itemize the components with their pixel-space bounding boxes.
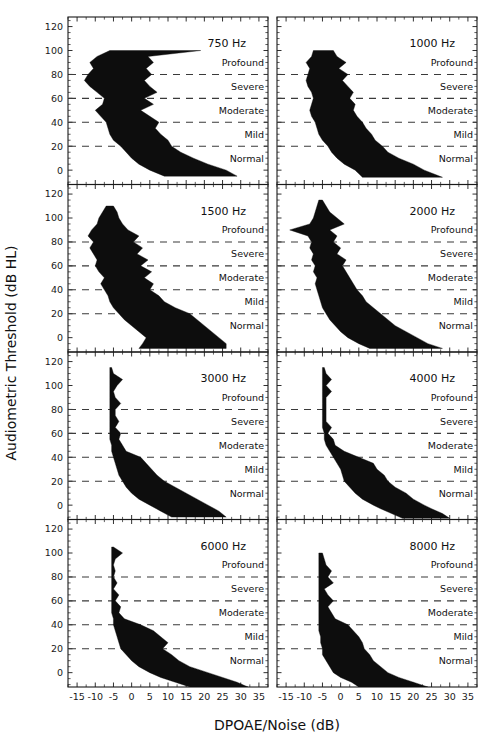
x-tick-label: -15 — [278, 691, 294, 702]
frequency-label: 4000 Hz — [409, 372, 455, 385]
x-tick-label: -15 — [69, 691, 85, 702]
severity-label-normal: Normal — [439, 320, 473, 331]
frequency-label: 8000 Hz — [409, 540, 455, 553]
severity-label-moderate: Moderate — [428, 105, 473, 116]
y-tick-label: 0 — [57, 165, 63, 176]
severity-label-moderate: Moderate — [219, 272, 264, 283]
y-tick-label: 120 — [45, 523, 63, 534]
distribution-band — [306, 51, 442, 178]
severity-label-mild: Mild — [244, 296, 264, 307]
panel-6000-hz: 6000 HzProfoundSevereModerateMildNormal0… — [45, 520, 268, 703]
y-tick-label: 100 — [45, 212, 63, 223]
severity-label-severe: Severe — [440, 583, 473, 594]
frequency-label: 1000 Hz — [409, 37, 455, 50]
severity-label-severe: Severe — [231, 583, 264, 594]
severity-label-profound: Profound — [222, 57, 264, 68]
y-tick-label: 0 — [57, 667, 63, 678]
x-tick-label: 20 — [407, 691, 419, 702]
severity-label-moderate: Moderate — [428, 440, 473, 451]
x-tick-label: 30 — [444, 691, 456, 702]
severity-label-mild: Mild — [244, 129, 264, 140]
caption-fragment — [6, 737, 493, 749]
y-tick-label: 80 — [51, 69, 63, 80]
y-tick-label: 20 — [51, 141, 63, 152]
severity-label-severe: Severe — [440, 416, 473, 427]
y-tick-label: 40 — [51, 117, 63, 128]
distribution-band — [88, 206, 226, 348]
panel-8000-hz: 8000 HzProfoundSevereModerateMildNormal-… — [277, 520, 477, 703]
x-tick-label: 20 — [198, 691, 210, 702]
x-tick-label: 15 — [180, 691, 192, 702]
y-tick-label: 80 — [51, 404, 63, 415]
frequency-label: 3000 Hz — [200, 372, 246, 385]
y-tick-label: 60 — [51, 595, 63, 606]
severity-label-normal: Normal — [230, 655, 264, 666]
severity-label-severe: Severe — [231, 81, 264, 92]
y-tick-label: 120 — [45, 356, 63, 367]
multi-panel-scatter-band-figure: 750 HzProfoundSevereModerateMildNormal02… — [0, 0, 499, 749]
y-tick-label: 80 — [51, 571, 63, 582]
x-tick-label: 25 — [425, 691, 437, 702]
x-tick-label: -10 — [297, 691, 313, 702]
y-tick-label: 60 — [51, 260, 63, 271]
x-tick-label: -10 — [88, 691, 104, 702]
figure-container: 750 HzProfoundSevereModerateMildNormal02… — [0, 0, 499, 749]
distribution-band — [319, 553, 428, 687]
severity-label-mild: Mild — [453, 631, 473, 642]
x-tick-label: 10 — [162, 691, 174, 702]
y-tick-label: 20 — [51, 476, 63, 487]
severity-label-profound: Profound — [222, 392, 264, 403]
severity-label-profound: Profound — [431, 57, 473, 68]
x-tick-label: 0 — [338, 691, 344, 702]
severity-label-severe: Severe — [231, 416, 264, 427]
y-tick-label: 0 — [57, 500, 63, 511]
severity-label-moderate: Moderate — [219, 440, 264, 451]
distribution-band — [290, 200, 443, 348]
x-tick-label: 15 — [389, 691, 401, 702]
x-tick-label: 25 — [216, 691, 228, 702]
panel-3000-hz: 3000 HzProfoundSevereModerateMildNormal0… — [45, 352, 268, 520]
severity-label-mild: Mild — [244, 464, 264, 475]
y-tick-label: 40 — [51, 452, 63, 463]
distribution-band — [84, 51, 237, 177]
x-tick-label: 5 — [147, 691, 153, 702]
panel-2000-hz: 2000 HzProfoundSevereModerateMildNormal — [277, 185, 477, 353]
x-axis-title: DPOAE/Noise (dB) — [214, 717, 340, 733]
x-tick-label: -5 — [109, 691, 118, 702]
severity-label-moderate: Moderate — [428, 272, 473, 283]
y-tick-label: 40 — [51, 619, 63, 630]
severity-label-severe: Severe — [231, 248, 264, 259]
severity-label-normal: Normal — [439, 488, 473, 499]
severity-label-severe: Severe — [440, 248, 473, 259]
severity-label-mild: Mild — [453, 464, 473, 475]
frequency-label: 1500 Hz — [200, 205, 246, 218]
severity-label-moderate: Moderate — [219, 607, 264, 618]
severity-label-normal: Normal — [439, 655, 473, 666]
distribution-band — [110, 368, 226, 518]
panel-4000-hz: 4000 HzProfoundSevereModerateMildNormal — [277, 352, 477, 520]
y-tick-label: 120 — [45, 21, 63, 32]
severity-label-profound: Profound — [431, 392, 473, 403]
x-tick-label: 30 — [235, 691, 247, 702]
panel-750-hz: 750 HzProfoundSevereModerateMildNormal02… — [45, 17, 268, 185]
severity-label-normal: Normal — [230, 320, 264, 331]
y-tick-label: 80 — [51, 236, 63, 247]
severity-label-mild: Mild — [453, 296, 473, 307]
severity-label-normal: Normal — [230, 153, 264, 164]
x-tick-label: -5 — [318, 691, 327, 702]
y-tick-label: 100 — [45, 547, 63, 558]
frequency-label: 6000 Hz — [200, 540, 246, 553]
severity-label-normal: Normal — [439, 153, 473, 164]
x-tick-label: 35 — [462, 691, 474, 702]
severity-label-severe: Severe — [440, 81, 473, 92]
severity-label-mild: Mild — [453, 129, 473, 140]
y-tick-label: 20 — [51, 643, 63, 654]
y-tick-label: 20 — [51, 308, 63, 319]
x-tick-label: 10 — [371, 691, 383, 702]
panel-1500-hz: 1500 HzProfoundSevereModerateMildNormal0… — [45, 185, 268, 353]
panel-grid: 750 HzProfoundSevereModerateMildNormal02… — [45, 17, 477, 702]
y-tick-label: 60 — [51, 428, 63, 439]
y-tick-label: 100 — [45, 45, 63, 56]
severity-label-normal: Normal — [230, 488, 264, 499]
x-tick-label: 0 — [129, 691, 135, 702]
